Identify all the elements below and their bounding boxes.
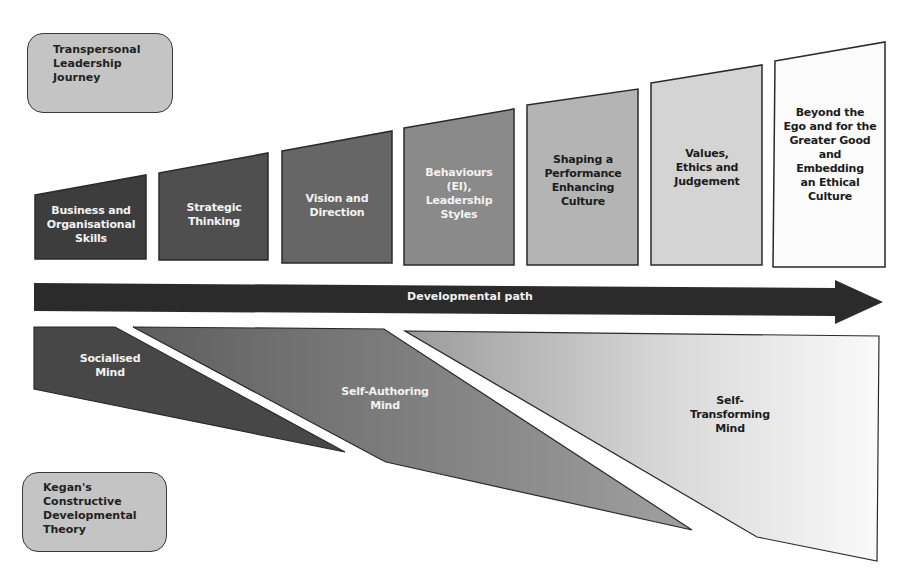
kegan-line-2: Constructive bbox=[43, 495, 166, 509]
stage-label-7: Beyond theEgo and for theGreater Goodand… bbox=[770, 106, 890, 204]
title-line-3: Journey bbox=[53, 71, 172, 85]
socialised-mind-label: SocialisedMind bbox=[60, 352, 160, 380]
stage-label-1: Business andOrganisationalSkills bbox=[30, 204, 152, 246]
stage-label-4: Behaviours(EI),LeadershipStyles bbox=[402, 166, 516, 222]
transpersonal-leadership-journey-label: Transpersonal Leadership Journey bbox=[27, 33, 173, 113]
stage-label-2: StrategicThinking bbox=[155, 201, 273, 229]
title-line-1: Transpersonal bbox=[53, 43, 172, 57]
title-line-2: Leadership bbox=[53, 57, 172, 71]
self-authoring-mind-label: Self-AuthoringMind bbox=[320, 385, 450, 413]
stage-label-6: Values,Ethics andJudgement bbox=[649, 147, 765, 189]
kegan-theory-label: Kegan's Constructive Developmental Theor… bbox=[22, 472, 167, 552]
kegan-line-3: Developmental bbox=[43, 509, 166, 523]
kegan-line-1: Kegan's bbox=[43, 481, 166, 495]
self-transforming-mind-label: Self-TransformingMind bbox=[670, 394, 790, 436]
kegan-line-4: Theory bbox=[43, 523, 166, 537]
stage-label-5: Shaping aPerformanceEnhancingCulture bbox=[524, 153, 642, 209]
developmental-path-label: Developmental path bbox=[360, 290, 580, 303]
stage-label-3: Vision andDirection bbox=[280, 192, 394, 220]
